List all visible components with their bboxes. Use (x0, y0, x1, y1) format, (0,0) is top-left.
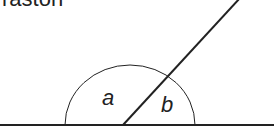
angle-figure: a b (0, 0, 274, 138)
angle-label-a: a (102, 85, 114, 110)
angle-diagram: raston a b (0, 0, 274, 138)
transversal-line (123, 0, 240, 125)
angle-label-b: b (161, 92, 173, 117)
